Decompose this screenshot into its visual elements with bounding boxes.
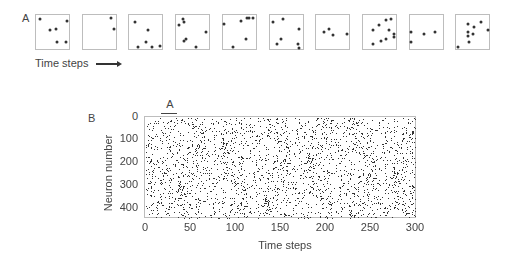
x-tick: 0 [130, 221, 160, 233]
network-snapshot [362, 14, 397, 50]
raster-plot [144, 116, 416, 218]
active-neuron-dot [109, 17, 112, 20]
network-snapshot [455, 14, 490, 50]
active-neuron-dot [468, 41, 471, 44]
y-tick: 0 [108, 110, 138, 122]
y-axis-label: Neuron number [102, 128, 114, 218]
network-snapshot [409, 14, 444, 50]
active-neuron-dot [423, 32, 426, 35]
active-neuron-dot [298, 28, 301, 31]
active-neuron-dot [345, 32, 348, 35]
active-neuron-dot [177, 24, 180, 27]
active-neuron-dot [456, 46, 459, 49]
active-neuron-dot [38, 18, 41, 21]
active-neuron-dot [275, 42, 278, 45]
active-neuron-dot [48, 29, 51, 32]
time-steps-label: Time steps [35, 57, 88, 69]
active-neuron-dot [55, 27, 58, 30]
active-neuron-dot [280, 38, 283, 41]
active-neuron-dot [410, 31, 413, 34]
panel-a-label: A [22, 12, 29, 24]
active-neuron-dot [387, 29, 390, 32]
x-tick: 200 [310, 221, 340, 233]
active-neuron-dot [393, 36, 396, 39]
active-neuron-dot [473, 25, 476, 28]
active-neuron-dot [371, 42, 374, 45]
active-neuron-dot [384, 19, 387, 22]
active-neuron-dot [183, 20, 186, 23]
network-snapshot [82, 14, 117, 50]
active-neuron-dot [65, 19, 68, 22]
active-neuron-dot [480, 20, 483, 23]
active-neuron-dot [281, 18, 284, 21]
active-neuron-dot [486, 29, 489, 32]
active-neuron-dot [323, 31, 326, 34]
active-neuron-dot [297, 47, 300, 50]
active-neuron-dot [378, 24, 381, 27]
window-marker-bar [161, 113, 177, 114]
active-neuron-dot [380, 39, 383, 42]
active-neuron-dot [64, 40, 67, 43]
active-neuron-dot [134, 20, 137, 23]
active-neuron-dot [272, 21, 275, 24]
active-neuron-dot [223, 22, 226, 25]
active-neuron-dot [384, 38, 387, 41]
active-neuron-dot [158, 44, 161, 47]
right-arrow-icon [96, 63, 118, 65]
active-neuron-dot [328, 27, 331, 30]
active-neuron-dot [389, 18, 392, 21]
x-tick: 300 [400, 221, 430, 233]
network-snapshot [35, 14, 70, 50]
active-neuron-dot [144, 41, 147, 44]
active-neuron-dot [183, 39, 186, 42]
network-snapshot [269, 14, 304, 50]
active-neuron-dot [136, 46, 139, 49]
x-tick: 50 [175, 221, 205, 233]
active-neuron-dot [410, 41, 413, 44]
x-axis-label: Time steps [240, 239, 330, 251]
active-neuron-dot [466, 35, 469, 38]
panel-b-label: B [88, 112, 95, 124]
active-neuron-dot [205, 31, 208, 34]
active-neuron-dot [244, 37, 247, 40]
x-tick: 100 [220, 221, 250, 233]
active-neuron-dot [331, 34, 334, 37]
x-tick: 150 [265, 221, 295, 233]
active-neuron-dot [466, 22, 469, 25]
x-tick: 250 [355, 221, 385, 233]
active-neuron-dot [247, 17, 250, 20]
active-neuron-dot [466, 31, 469, 34]
window-marker-label: A [163, 98, 177, 110]
network-snapshot [315, 14, 350, 50]
active-neuron-dot [434, 31, 437, 34]
active-neuron-dot [252, 17, 255, 20]
active-neuron-dot [56, 40, 59, 43]
active-neuron-dot [471, 32, 474, 35]
active-neuron-dot [113, 27, 116, 30]
active-neuron-dot [232, 46, 235, 49]
active-neuron-dot [371, 29, 374, 32]
network-snapshot [128, 14, 163, 50]
active-neuron-dot [151, 46, 154, 49]
active-neuron-dot [146, 29, 149, 32]
spike-canvas [145, 117, 417, 219]
network-snapshot [222, 14, 257, 50]
active-neuron-dot [194, 46, 197, 49]
network-snapshot [175, 14, 210, 50]
active-neuron-dot [239, 19, 242, 22]
active-neuron-dot [296, 42, 299, 45]
